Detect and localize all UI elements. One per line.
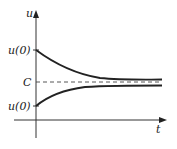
y-axis [33, 10, 39, 138]
y-axis-label: u [26, 7, 33, 20]
x-axis-label: t [156, 123, 161, 136]
lower-initial-label: u(0) [8, 100, 31, 113]
x-axis [14, 117, 167, 123]
lower-rise-curve [36, 86, 162, 107]
upper-initial-label: u(0) [8, 44, 31, 57]
y-axis-arrow-icon [33, 10, 39, 18]
solution-curves-diagram: u t u(0) C u(0) [0, 0, 177, 149]
upper-decay-curve [36, 50, 162, 80]
equilibrium-label: C [23, 76, 32, 89]
